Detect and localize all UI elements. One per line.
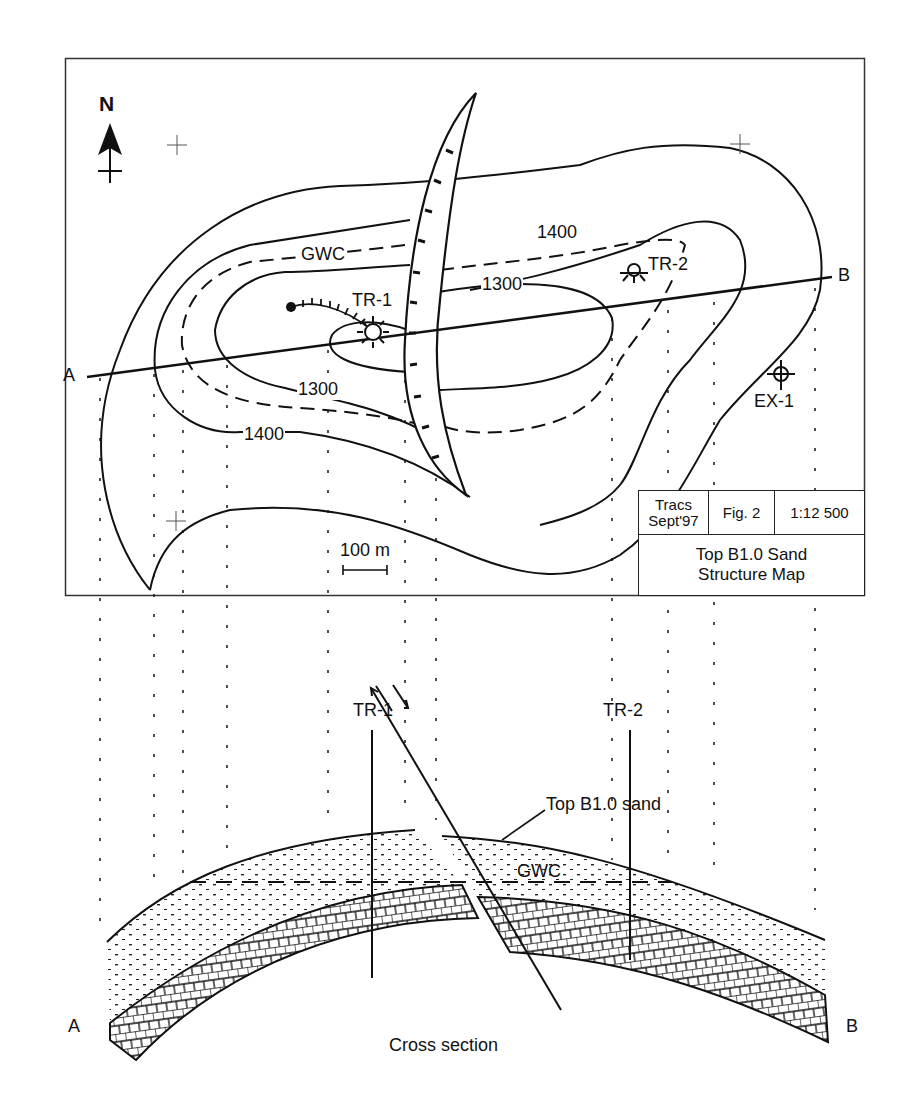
author-line-1: Tracs bbox=[655, 497, 692, 513]
north-arrow-icon bbox=[98, 123, 122, 183]
title-block-figure: Fig. 2 bbox=[708, 490, 775, 535]
contour-label-1400-top: 1400 bbox=[536, 222, 578, 243]
tr2-well-icon bbox=[620, 264, 648, 283]
section-end-b: B bbox=[846, 1016, 858, 1037]
contour-label-1300-top: 1300 bbox=[481, 274, 523, 295]
section-label-tr1: TR-1 bbox=[353, 700, 393, 721]
tr1-surface-location bbox=[286, 302, 296, 312]
title-block-scale: 1:12 500 bbox=[774, 490, 865, 535]
title-block: Tracs Sept'97 Fig. 2 1:12 500 Top B1.0 S… bbox=[638, 490, 865, 596]
well-label-ex1: EX-1 bbox=[754, 391, 794, 412]
gwc-label-map: GWC bbox=[300, 244, 346, 265]
section-gwc-label: GWC bbox=[517, 861, 561, 882]
section-end-b-map: B bbox=[838, 265, 850, 286]
author-line-2: Sept'97 bbox=[648, 513, 698, 529]
tr1-well-icon bbox=[357, 316, 389, 348]
title-block-author: Tracs Sept'97 bbox=[638, 490, 709, 535]
section-end-a: A bbox=[68, 1016, 80, 1037]
well-label-tr2: TR-2 bbox=[648, 254, 688, 275]
horizon-label: Top B1.0 sand bbox=[546, 794, 661, 815]
section-end-a-map: A bbox=[63, 365, 75, 386]
horizon-leader-line bbox=[502, 810, 545, 840]
title-line-2: Structure Map bbox=[698, 565, 805, 585]
fault-polygon bbox=[404, 93, 476, 495]
scale-bar-label: 100 m bbox=[340, 540, 390, 561]
section-label-tr2: TR-2 bbox=[603, 700, 643, 721]
section-line-ab bbox=[87, 277, 832, 377]
scale-bar bbox=[343, 565, 387, 575]
contour-label-1300-bottom: 1300 bbox=[297, 379, 339, 400]
title-line-1: Top B1.0 Sand bbox=[696, 545, 808, 565]
contour-label-1400-bottom: 1400 bbox=[243, 424, 285, 445]
well-label-tr1: TR-1 bbox=[352, 290, 392, 311]
title-block-title: Top B1.0 Sand Structure Map bbox=[638, 534, 865, 596]
north-label: N bbox=[99, 92, 114, 116]
cross-section-caption: Cross section bbox=[389, 1035, 498, 1056]
